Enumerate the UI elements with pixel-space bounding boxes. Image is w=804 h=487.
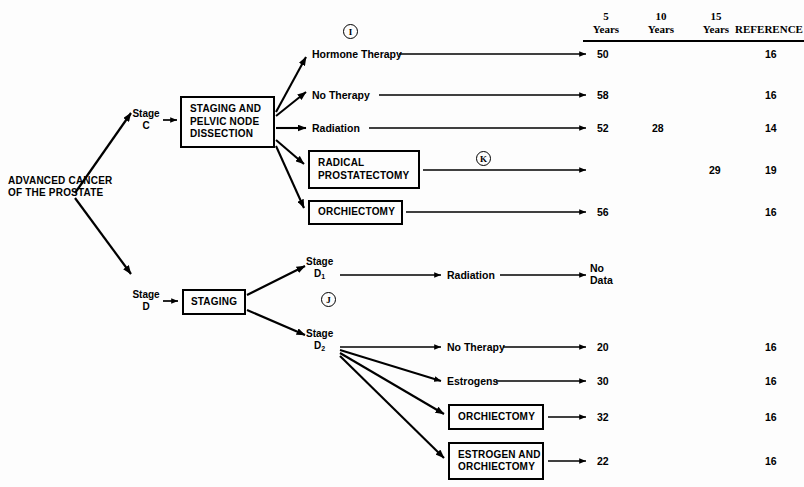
value-radiation-c-reference: 14 (765, 122, 777, 134)
branch-orchiectomy-c[interactable]: ORCHIECTOMY (308, 200, 403, 225)
value-no-therapy-d2-years5: 20 (597, 341, 609, 353)
node-staging-pelvic-label: STAGING AND PELVIC NODE DISSECTION (190, 103, 261, 141)
value-no-therapy-d2-reference: 16 (765, 341, 777, 353)
value-estrogen-and-orchiectomy-d2-years5: 22 (597, 455, 609, 467)
node-staging[interactable]: STAGING (182, 289, 246, 315)
branch-label-radiation-d1[interactable]: Radiation (447, 269, 495, 281)
value-radical-prostatectomy-years15: 29 (709, 164, 721, 176)
decision-tree-diagram: 5 Years 10 Years 15 Years REFERENCE ADVA… (0, 0, 804, 487)
branch-label-orchiectomy-d2: ORCHIECTOMY (458, 411, 535, 424)
branch-label-orchiectomy-c: ORCHIECTOMY (318, 206, 395, 219)
branch-radical-prostatectomy[interactable]: RADICAL PROSTATECTOMY (308, 150, 420, 189)
value-radiation-c-years10: 28 (652, 122, 664, 134)
value-no-therapy-c-reference: 16 (765, 89, 777, 101)
stage-d-line2: D (142, 301, 149, 312)
value-hormone-therapy-years5: 50 (597, 48, 609, 60)
stage-label-d1: Stage D1 (306, 256, 346, 281)
column-header-years15: 15 Years (694, 10, 738, 35)
stage-c-line1: Stage (132, 108, 159, 119)
stage-d2-subscript: 2 (321, 345, 325, 352)
value-radiation-c-years5: 52 (597, 122, 609, 134)
value-orchiectomy-c-reference: 16 (765, 206, 777, 218)
value-hormone-therapy-reference: 16 (765, 48, 777, 60)
branch-label-estrogen-and-orchiectomy-d2: ESTROGEN AND ORCHIECTOMY (458, 449, 541, 474)
value-orchiectomy-c-years5: 56 (597, 206, 609, 218)
column-header-years10: 10 Years (639, 10, 683, 35)
stage-label-c: Stage C (126, 108, 166, 132)
stage-d1-subscript: 1 (321, 273, 325, 280)
stage-d2-line2: D (306, 340, 321, 351)
stage-label-d: Stage D (126, 289, 166, 313)
value-radiation-d1-years5: No Data (590, 262, 613, 286)
value-orchiectomy-d2-years5: 32 (597, 411, 609, 423)
node-staging-label: STAGING (191, 296, 237, 309)
branch-orchiectomy-d2[interactable]: ORCHIECTOMY (448, 404, 544, 430)
value-radical-prostatectomy-reference: 19 (765, 164, 777, 176)
branch-label-hormone-therapy[interactable]: Hormone Therapy (312, 48, 402, 60)
stage-d1-line2: D (306, 268, 321, 279)
stage-d2-line1: Stage (306, 328, 333, 339)
root-node-label: ADVANCED CANCER OF THE PROSTATE (8, 175, 128, 199)
branch-label-radiation-c[interactable]: Radiation (312, 122, 360, 134)
branch-label-estrogens-d2[interactable]: Estrogens (447, 375, 498, 387)
value-estrogens-d2-years5: 30 (597, 375, 609, 387)
stage-c-line2: C (142, 120, 149, 131)
value-orchiectomy-d2-reference: 16 (765, 411, 777, 423)
stage-d-line1: Stage (132, 289, 159, 300)
node-staging-pelvic-node-dissection[interactable]: STAGING AND PELVIC NODE DISSECTION (180, 96, 275, 148)
connector-lines (0, 0, 804, 487)
annotation-circle-i: I (343, 24, 358, 39)
annotation-circle-k: K (476, 151, 491, 166)
header-rule (583, 40, 804, 42)
branch-label-no-therapy-c[interactable]: No Therapy (312, 89, 370, 101)
value-estrogen-and-orchiectomy-d2-reference: 16 (765, 455, 777, 467)
stage-d1-line1: Stage (306, 256, 333, 267)
branch-estrogen-and-orchiectomy-d2[interactable]: ESTROGEN AND ORCHIECTOMY (448, 442, 544, 480)
stage-label-d2: Stage D2 (306, 328, 346, 353)
value-estrogens-d2-reference: 16 (765, 375, 777, 387)
branch-label-no-therapy-d2[interactable]: No Therapy (447, 341, 505, 353)
branch-label-radical-prostatectomy: RADICAL PROSTATECTOMY (318, 157, 410, 182)
column-header-reference: REFERENCE (735, 23, 803, 36)
value-no-therapy-c-years5: 58 (597, 89, 609, 101)
annotation-circle-j: J (321, 292, 336, 307)
column-header-years5: 5 Years (584, 10, 628, 35)
